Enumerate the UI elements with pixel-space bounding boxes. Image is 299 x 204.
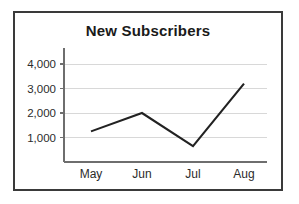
gridlines — [64, 64, 267, 138]
xtick-label-jun: Jun — [132, 167, 151, 181]
xtick-label-aug: Aug — [233, 167, 254, 181]
y-axis-tick-labels: 4,000 3,000 2,000 1,000 — [27, 58, 56, 144]
xtick-label-may: May — [80, 167, 103, 181]
chart-inner: New Subscribers 4,000 3,000 — [15, 13, 281, 189]
chart-container: New Subscribers 4,000 3,000 — [13, 11, 283, 191]
series-line-new-subscribers — [91, 84, 244, 146]
ytick-label-1000: 1,000 — [27, 132, 56, 144]
ytick-label-4000: 4,000 — [27, 58, 56, 70]
x-axis-tick-labels: May Jun Jul Aug — [80, 167, 255, 181]
plot-area: 4,000 3,000 2,000 1,000 May Jun Jul Aug — [15, 13, 285, 193]
xtick-label-jul: Jul — [185, 167, 200, 181]
ytick-label-2000: 2,000 — [27, 107, 56, 119]
axis-spines — [64, 48, 267, 162]
ytick-label-3000: 3,000 — [27, 83, 56, 95]
